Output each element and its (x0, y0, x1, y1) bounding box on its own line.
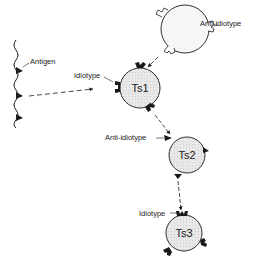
antigen-determinant-icon (16, 92, 23, 99)
anti-idiotype-cell (156, 5, 214, 54)
arrow-ts1-to-ts2 (155, 115, 170, 134)
ts1-cell: Ts1 (115, 62, 160, 112)
arrow-ts2-to-ts3 (178, 181, 181, 210)
anti-idiotype-ts2-label: Anti-idiotype (105, 133, 146, 142)
idiotype-ts1-label: Idiotype (74, 71, 100, 80)
idiotype-receptor-icon (135, 62, 146, 68)
ts2-cell: Ts2 (164, 135, 209, 179)
idiotype-network-diagram: Antigen Anti-idiotype Ts1 (0, 0, 254, 266)
arrow-anti-idiotype-to-ts1 (148, 57, 158, 67)
anti-idiotype-determinant-icon (174, 174, 182, 179)
diagram-canvas: Antigen Anti-idiotype Ts1 (0, 0, 254, 266)
ts2-label: Ts2 (178, 149, 195, 161)
antigen-determinant-icon (16, 114, 23, 121)
ts3-cell: Ts3 (163, 211, 207, 256)
idiotype-receptor-icon (176, 211, 188, 216)
anti-idiotype-top-label: Anti-idiotype (200, 19, 241, 28)
ts1-label: Ts1 (131, 82, 148, 94)
anti-idiotype-determinant-icon (164, 135, 172, 141)
antigen-determinant-icon (16, 67, 23, 74)
anti-idiotype-determinant-icon (203, 147, 209, 153)
ts3-label: Ts3 (175, 227, 192, 239)
idiotype-receptor-icon (115, 81, 120, 93)
idiotype-ts3-label: Idiotype (139, 209, 165, 218)
arrow-antigen-to-ts1 (29, 89, 93, 96)
antigen-label: Antigen (30, 57, 55, 66)
idiotype-receptor-icon (163, 247, 172, 256)
antigen-chain (14, 40, 29, 128)
